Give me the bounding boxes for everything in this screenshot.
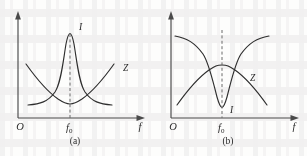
panel-b-f0-tick-label: f0 — [218, 122, 225, 135]
panel-b-origin-label: O — [169, 121, 177, 132]
panel-a-caption: (a) — [55, 136, 95, 146]
panel-b-impedance-curve-label: Z — [250, 73, 256, 83]
panel-b-y-axis-arrowhead — [168, 11, 174, 20]
panel-a-chart: O f f0 I Z — [0, 0, 153, 156]
panel-a-current-curve-label: I — [78, 22, 83, 32]
panel-a-f0-tick-subscript: 0 — [69, 127, 73, 135]
panel-b-caption: (b) — [208, 136, 248, 146]
panel-a-x-axis-label: f — [139, 121, 144, 132]
panel-a-origin-label: O — [16, 121, 24, 132]
panel-b-f0-tick-subscript: 0 — [221, 127, 225, 135]
panel-b-current-curve-label: I — [229, 105, 234, 115]
panel-b-chart: O f f0 I Z — [153, 0, 307, 156]
panel-a-impedance-curve-label: Z — [123, 63, 129, 73]
panel-b-x-axis-label: f — [293, 121, 298, 132]
panel-a-y-axis-arrowhead — [15, 11, 21, 20]
figure-container: O f f0 I Z O f f0 I Z (a) (b) — [0, 0, 307, 156]
panel-a-f0-tick-label: f0 — [66, 122, 73, 135]
